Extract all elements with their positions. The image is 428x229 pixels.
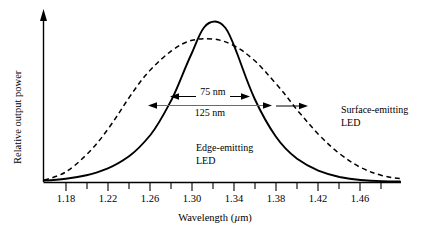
edge-label-line1: Edge-emitting: [196, 142, 253, 153]
surface-label-line1: Surface-emitting: [341, 104, 408, 115]
x-tick-label: 1.22: [99, 193, 117, 204]
x-axis-label: Wavelength (µm): [178, 212, 252, 224]
led-spectrum-chart: Relative output power 1.18: [0, 0, 428, 229]
x-tick-label: 1.38: [267, 193, 285, 204]
x-axis-label-main: Wavelength: [178, 212, 229, 223]
x-tick-label: 1.18: [57, 193, 75, 204]
edge-label-line2: LED: [196, 155, 215, 166]
surface-label-line2: LED: [341, 117, 360, 128]
x-tick-label: 1.26: [141, 193, 159, 204]
x-tick-label: 1.30: [183, 193, 201, 204]
x-axis-label-unit-close: m): [240, 212, 252, 224]
y-axis-label: Relative output power: [12, 70, 23, 164]
fwhm-125-label: 125 nm: [195, 107, 226, 118]
fwhm-75-label: 75 nm: [200, 86, 226, 97]
x-tick-label: 1.34: [225, 193, 244, 204]
x-tick-label: 1.46: [351, 193, 369, 204]
x-tick-label: 1.42: [309, 193, 327, 204]
